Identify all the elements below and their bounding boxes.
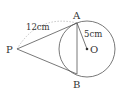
geometry-diagram: A B P O 12cm 5cm: [0, 0, 129, 96]
label-o: O: [90, 44, 98, 55]
label-radius-length: 5cm: [84, 29, 102, 39]
center-dot-o: [86, 48, 89, 51]
segment-pb: [17, 49, 77, 74]
label-b: B: [73, 79, 80, 90]
label-p: P: [6, 44, 13, 55]
diagram-canvas: A B P O 12cm 5cm: [0, 0, 129, 96]
label-pa-length: 12cm: [26, 22, 50, 32]
label-a: A: [72, 10, 81, 21]
